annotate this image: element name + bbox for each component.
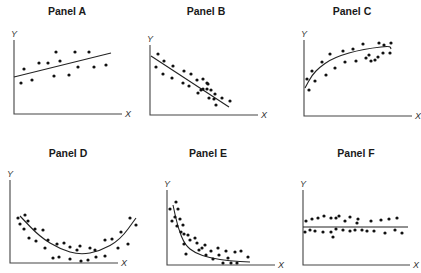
x-axis-label: X xyxy=(124,109,132,119)
x-axis-label: X xyxy=(412,260,420,270)
data-point xyxy=(171,64,174,67)
data-point xyxy=(200,246,203,249)
data-point xyxy=(316,216,319,219)
data-point xyxy=(128,216,131,219)
data-point xyxy=(41,228,44,231)
data-point xyxy=(197,248,200,251)
data-point xyxy=(224,249,227,252)
data-point xyxy=(110,237,113,240)
data-point xyxy=(365,229,368,232)
data-point xyxy=(193,236,196,239)
panel-b: Panel BYX xyxy=(147,5,268,120)
data-point xyxy=(369,59,372,62)
data-point xyxy=(229,261,232,264)
data-point xyxy=(348,215,351,218)
data-point xyxy=(304,219,307,222)
data-point xyxy=(246,255,249,258)
data-point xyxy=(174,200,177,203)
data-point xyxy=(103,254,106,257)
data-point xyxy=(356,217,359,220)
data-point xyxy=(187,84,190,87)
data-point xyxy=(343,219,346,222)
data-point xyxy=(16,216,19,219)
y-axis-label: Y xyxy=(11,29,18,39)
data-point xyxy=(217,253,220,256)
data-point xyxy=(181,223,184,226)
data-point xyxy=(76,65,79,68)
data-point xyxy=(57,255,60,258)
panel-a: Panel AYX xyxy=(11,5,132,119)
data-point xyxy=(195,241,198,244)
trend-line xyxy=(151,56,229,107)
x-axis-label: X xyxy=(260,110,268,120)
data-point xyxy=(176,207,179,210)
data-point xyxy=(182,232,185,235)
data-point xyxy=(22,227,25,230)
data-point xyxy=(322,214,325,217)
axes xyxy=(304,40,412,116)
data-point xyxy=(337,214,340,217)
data-point xyxy=(343,60,346,63)
data-point xyxy=(92,65,95,68)
data-point xyxy=(211,257,214,260)
data-point xyxy=(33,227,36,230)
data-point xyxy=(154,65,157,68)
data-point xyxy=(62,241,65,244)
y-axis-label: Y xyxy=(7,169,14,179)
data-point xyxy=(220,96,223,99)
data-point xyxy=(361,42,364,45)
panel-d: Panel DYX xyxy=(7,147,138,268)
axes xyxy=(10,180,118,263)
data-point xyxy=(329,230,332,233)
data-point xyxy=(320,60,323,63)
data-point xyxy=(26,219,29,222)
data-point xyxy=(87,50,90,53)
data-point xyxy=(324,73,327,76)
data-point xyxy=(58,59,61,62)
data-points xyxy=(19,50,107,84)
data-points xyxy=(154,52,231,106)
data-point xyxy=(400,231,403,234)
data-point xyxy=(376,55,379,58)
data-point xyxy=(116,246,119,249)
data-point xyxy=(383,231,386,234)
data-point xyxy=(134,223,137,226)
data-point xyxy=(216,246,219,249)
data-point xyxy=(360,228,363,231)
data-point xyxy=(126,242,129,245)
axes xyxy=(14,40,122,114)
data-point xyxy=(305,77,308,80)
data-point xyxy=(43,246,46,249)
data-point xyxy=(18,222,21,225)
data-point xyxy=(178,217,181,220)
data-point xyxy=(34,239,37,242)
data-point xyxy=(207,96,210,99)
data-point xyxy=(379,218,382,221)
data-point xyxy=(103,238,106,241)
trend-line xyxy=(305,47,391,88)
data-point xyxy=(226,256,229,259)
data-point xyxy=(239,249,242,252)
data-point xyxy=(303,230,306,233)
data-point xyxy=(341,49,344,52)
data-point xyxy=(395,216,398,219)
data-point xyxy=(341,228,344,231)
data-point xyxy=(377,41,380,44)
data-point xyxy=(209,88,212,91)
data-point xyxy=(156,52,159,55)
data-point xyxy=(201,87,204,90)
data-point xyxy=(170,76,173,79)
data-point xyxy=(182,69,185,72)
data-point xyxy=(308,228,311,231)
data-point xyxy=(331,235,334,238)
data-point xyxy=(329,216,332,219)
data-point xyxy=(205,87,208,90)
data-point xyxy=(310,217,313,220)
data-point xyxy=(182,242,185,245)
data-point xyxy=(387,217,390,220)
data-point xyxy=(104,63,107,66)
data-point xyxy=(353,228,356,231)
panel-title: Panel F xyxy=(337,147,375,159)
data-point xyxy=(369,219,372,222)
data-point xyxy=(23,213,26,216)
